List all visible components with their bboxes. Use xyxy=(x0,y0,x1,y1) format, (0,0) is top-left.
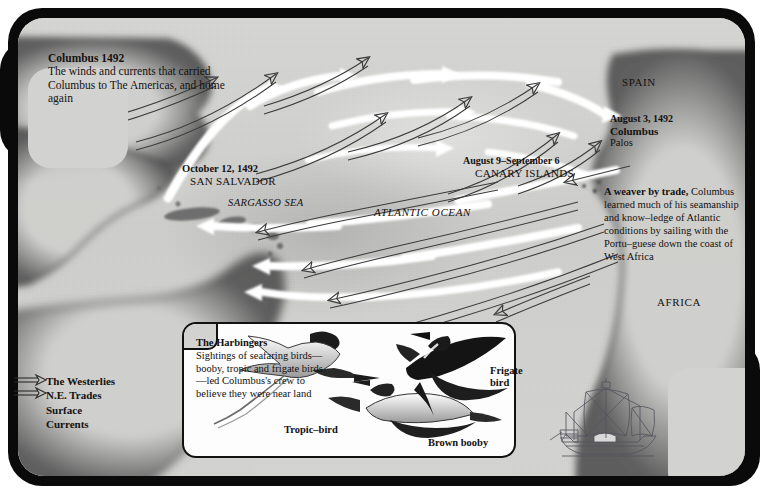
legend-item-currents: Currents xyxy=(46,417,176,431)
title-body: The winds and currents that carried Colu… xyxy=(48,65,238,105)
bird-label-frigate-line1: Frigate xyxy=(490,365,523,377)
legend-item-surface: Surface xyxy=(46,403,176,417)
canary-stop-label: August 9–September 6 CANARY ISLANDS xyxy=(463,155,623,179)
landfall-date: October 12, 1492 xyxy=(182,163,362,175)
map-infographic: Columbus 1492 The winds and currents tha… xyxy=(0,0,763,494)
canary-date: August 9–September 6 xyxy=(463,155,623,167)
caravel-ship-illustration xyxy=(548,378,664,470)
title-heading: Columbus 1492 xyxy=(48,52,238,65)
bird-label-frigate-line2: bird xyxy=(490,377,523,389)
canary-place: CANARY ISLANDS xyxy=(475,167,623,180)
departure-date: August 3, 1492 xyxy=(610,113,740,125)
spain-label: SPAIN xyxy=(622,76,656,89)
legend-item-westerlies: The Westerlies xyxy=(46,374,176,388)
legend-item-ne-trades: N.E. Trades xyxy=(46,388,176,402)
paper-notch-bottom-right xyxy=(668,368,745,476)
bird-label-booby: Brown booby xyxy=(428,437,488,448)
landfall-place: SAN SALVADOR xyxy=(190,175,362,188)
weaver-body: Columbus learned much of his seamanship … xyxy=(604,186,739,262)
atlantic-ocean-label: ATLANTIC OCEAN xyxy=(374,206,471,219)
legend-arrow-icons xyxy=(14,375,48,401)
inset-body: Sightings of seafaring birds—booby, trop… xyxy=(196,350,323,399)
departure-name: Columbus xyxy=(610,125,740,138)
landfall-label: October 12, 1492 SAN SALVADOR xyxy=(182,163,362,188)
weaver-block: A weaver by trade, Columbus learned much… xyxy=(604,185,744,263)
bird-label-tropic: Tropic–bird xyxy=(284,424,338,435)
africa-label: AFRICA xyxy=(657,296,701,309)
sargasso-sea-label: SARGASSO SEA xyxy=(228,197,304,209)
legend: The Westerlies N.E. Trades Surface Curre… xyxy=(46,374,176,431)
departure-port: Palos xyxy=(610,137,740,149)
bird-label-frigate: Frigate bird xyxy=(490,365,523,389)
title-block: Columbus 1492 The winds and currents tha… xyxy=(48,52,238,105)
departure-label: August 3, 1492 Columbus Palos xyxy=(610,113,740,150)
weaver-heading: A weaver by trade, xyxy=(604,186,688,197)
inset-heading: The Harbingers xyxy=(196,337,267,348)
inset-text-block: The Harbingers Sightings of seafaring bi… xyxy=(196,337,332,401)
